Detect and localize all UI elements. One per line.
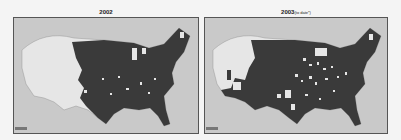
us-map-2002 bbox=[14, 18, 198, 133]
map-frame-2003 bbox=[204, 17, 388, 134]
map-title-suffix: (to date*) bbox=[294, 10, 310, 15]
map-title-2003: 2003(to date*) bbox=[204, 9, 388, 15]
map-title-text: 2002 bbox=[99, 9, 112, 15]
us-map-2003 bbox=[205, 18, 387, 133]
credit-logo bbox=[15, 127, 27, 130]
map-panel-2003: 2003(to date*) bbox=[204, 0, 388, 140]
map-frame-2002 bbox=[13, 17, 199, 134]
map-title-text: 2003 bbox=[281, 9, 294, 15]
map-panel-2002: 2002 bbox=[13, 0, 199, 140]
credit-logo bbox=[206, 127, 218, 130]
map-title-2002: 2002 bbox=[13, 9, 199, 15]
